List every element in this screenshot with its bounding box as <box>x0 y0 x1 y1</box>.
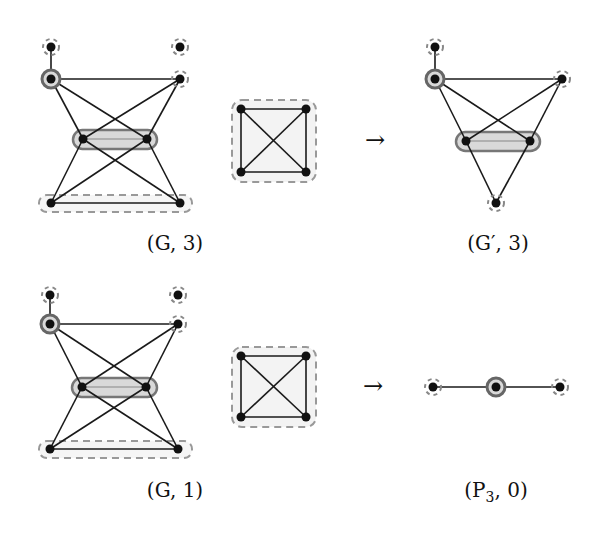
arrow-top: → <box>365 126 385 154</box>
node <box>172 39 188 55</box>
label-g-1: (G, 1) <box>147 478 203 502</box>
k4-bottom <box>232 347 316 427</box>
graph-g-bottom <box>39 287 192 458</box>
graph-g-top <box>39 39 192 212</box>
label-g-3: (G, 3) <box>147 231 203 255</box>
node <box>143 135 152 144</box>
graph-g-prime <box>426 39 570 211</box>
label-g-prime-3: (G′, 3) <box>467 231 529 255</box>
label-p3-0: (P3, 0) <box>464 478 527 505</box>
node <box>176 199 185 208</box>
figure-canvas: → (G, 3) (G′, 3) <box>0 0 600 533</box>
node <box>42 70 60 88</box>
node <box>79 135 88 144</box>
graph-p3 <box>425 378 568 396</box>
arrow-bottom: → <box>363 372 383 400</box>
k4-top <box>232 100 316 182</box>
node <box>47 199 56 208</box>
